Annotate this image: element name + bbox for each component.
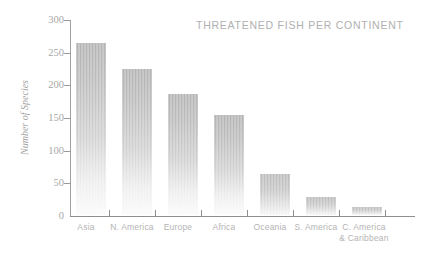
x-label-c-america-caribbean: C. America & Caribbean bbox=[332, 222, 396, 244]
x-tick-7 bbox=[385, 210, 386, 217]
x-tick-6 bbox=[339, 210, 340, 217]
y-axis-title: Number of Species bbox=[19, 63, 30, 173]
x-label-oceania-line1: Oceania bbox=[253, 222, 286, 232]
y-tick-50 bbox=[64, 183, 70, 184]
x-tick-5 bbox=[293, 210, 294, 217]
bar-s-america bbox=[306, 197, 336, 215]
y-tick-150 bbox=[64, 118, 70, 119]
x-label-africa-line1: Africa bbox=[213, 222, 236, 232]
x-label-c-america-line1: C. America bbox=[342, 222, 386, 232]
bar-n-america bbox=[122, 69, 152, 215]
y-tick-label-200: 200 bbox=[48, 79, 64, 90]
bar-oceania bbox=[260, 174, 290, 215]
y-tick-label-250: 250 bbox=[48, 47, 64, 58]
plot-area bbox=[70, 20, 415, 216]
y-tick-100 bbox=[64, 151, 70, 152]
y-tick-label-50: 50 bbox=[54, 177, 65, 188]
bar-chart: THREATENED FISH PER CONTINENT Number of … bbox=[0, 0, 423, 257]
x-tick-4 bbox=[247, 210, 248, 217]
y-tick-200 bbox=[64, 85, 70, 86]
x-label-asia-line1: Asia bbox=[77, 222, 94, 232]
bar-europe bbox=[168, 94, 198, 215]
bar-africa bbox=[214, 115, 244, 215]
bar-c-america-caribbean bbox=[352, 207, 382, 215]
x-label-europe-line1: Europe bbox=[164, 222, 193, 232]
x-label-c-america-line2: & Caribbean bbox=[332, 233, 396, 244]
y-tick-250 bbox=[64, 53, 70, 54]
bar-asia bbox=[76, 43, 106, 215]
y-tick-label-0: 0 bbox=[59, 210, 64, 221]
y-axis-tick-labels: 300 250 200 150 100 50 0 bbox=[36, 20, 64, 216]
x-tick-2 bbox=[155, 210, 156, 217]
x-tick-3 bbox=[201, 210, 202, 217]
y-axis-line bbox=[70, 20, 71, 217]
y-tick-label-150: 150 bbox=[48, 112, 64, 123]
y-tick-label-300: 300 bbox=[48, 14, 64, 25]
x-axis-line bbox=[70, 216, 415, 217]
y-tick-label-100: 100 bbox=[48, 145, 64, 156]
x-tick-1 bbox=[109, 210, 110, 217]
y-tick-300 bbox=[64, 20, 70, 21]
